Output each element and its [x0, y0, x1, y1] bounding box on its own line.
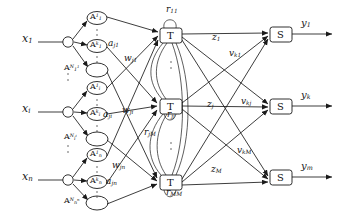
membership-label-A-1-N1: AN11 — [64, 64, 79, 73]
membership-label-A-i-k: Aki — [90, 109, 100, 118]
output-node-label-S1: S — [277, 30, 284, 40]
edge-label-z-1: z1 — [212, 33, 220, 43]
membership-label-A-n-k: Akn — [90, 177, 102, 186]
edge-label-v-kj: vkj — [241, 97, 251, 107]
output-node-label-Sk: S — [277, 102, 284, 112]
edge-label-r-jM: rjM — [144, 128, 156, 138]
consequent-edges — [182, 33, 268, 185]
edge-label-a-jn: ajn — [106, 177, 117, 187]
output-node-label-Sm: S — [277, 173, 284, 183]
output-label-ym: ym — [301, 161, 313, 172]
output-leads — [292, 34, 332, 177]
rule-node-label-T1: T — [167, 31, 174, 41]
edge-label-w-ji: wji — [122, 106, 133, 116]
membership-label-A-n-1: A1n — [90, 150, 102, 159]
membership-label-A-n-Nn: ANnn — [64, 197, 80, 206]
input-label-xi: xi — [22, 103, 30, 114]
edge-label-w-jn: wjn — [112, 161, 125, 171]
edge-label-a-ji: aji — [103, 110, 112, 120]
edge-label-r-MM: rMM — [166, 188, 182, 198]
network-diagram: x1 xi xn A11 Ak1 AN11 A1i Aki ANii A1n A… — [0, 0, 337, 216]
edge-label-r-jj: rjj — [167, 110, 175, 120]
edge-label-v-kM: vkM — [237, 146, 251, 156]
input-label-x1: x1 — [22, 33, 33, 44]
membership-label-A-i-1: A1i — [90, 83, 100, 92]
input-label-xn: xn — [22, 171, 33, 182]
output-label-y1: y1 — [301, 18, 311, 29]
membership-label-A-i-Ni: ANii — [64, 133, 77, 142]
membership-label-A-1-1: A11 — [90, 13, 102, 22]
edge-label-a-j1: aj1 — [108, 39, 119, 49]
membership-label-A-1-k: Ak1 — [90, 41, 102, 50]
edge-label-z-M: zM — [211, 165, 222, 175]
edge-label-r-11: r11 — [166, 5, 178, 15]
output-label-yk: yk — [301, 90, 311, 101]
input-leads — [38, 37, 73, 185]
fanout-edges — [73, 21, 88, 200]
edge-label-w-j1: wj1 — [124, 54, 137, 64]
edge-label-v-k1: vk1 — [229, 49, 241, 59]
edge-label-z-j: zj — [207, 100, 214, 110]
